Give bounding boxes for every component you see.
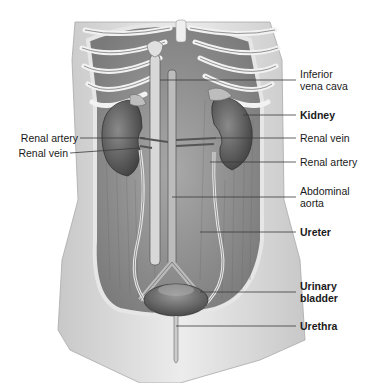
label-line: Renal vein	[300, 132, 350, 144]
label-line: Urinary	[300, 280, 338, 292]
label-inferior-vena-cava: Inferior vena cava	[300, 68, 348, 92]
label-line: Renal vein	[6, 147, 68, 159]
label-urinary-bladder: Urinary bladder	[300, 280, 338, 304]
label-ureter: Ureter	[300, 226, 331, 238]
urethra	[174, 316, 178, 363]
label-line: bladder	[300, 292, 338, 304]
label-kidney: Kidney	[300, 109, 335, 121]
label-renal-vein-right: Renal vein	[300, 132, 350, 144]
label-line: Urethra	[300, 320, 337, 332]
label-line: Abdominal	[300, 185, 350, 197]
label-renal-vein-left: Renal vein	[6, 147, 68, 159]
label-line: Ureter	[300, 226, 331, 238]
label-abdominal-aorta: Abdominal aorta	[300, 185, 350, 209]
label-line: Kidney	[300, 109, 335, 121]
label-renal-artery-left: Renal artery	[6, 132, 78, 144]
label-line: vena cava	[300, 80, 348, 92]
label-urethra: Urethra	[300, 320, 337, 332]
label-line: Renal artery	[300, 156, 357, 168]
label-line: Inferior	[300, 68, 348, 80]
label-renal-artery-right: Renal artery	[300, 156, 357, 168]
xiphoid	[176, 20, 186, 42]
label-line: Renal artery	[6, 132, 78, 144]
urinary-bladder	[144, 284, 208, 316]
label-line: aorta	[300, 197, 350, 209]
